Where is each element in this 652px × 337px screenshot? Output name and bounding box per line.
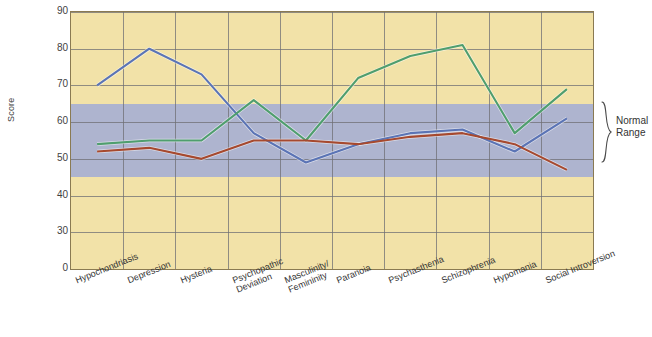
x-tick-3: PsychopathicDeviation: [231, 256, 288, 295]
x-tick-9: Social Introversion: [544, 248, 616, 285]
normal-range-label-line2: Range: [616, 127, 648, 139]
normal-range-annotation: Normal Range: [600, 101, 652, 163]
brace-icon: [600, 101, 614, 163]
x-tick-7: Schizophrenia: [440, 255, 497, 286]
x-tick-5: Paranoia: [335, 263, 372, 286]
x-tick-2: Hysteria: [179, 264, 213, 286]
normal-range-label-line1: Normal: [616, 115, 648, 127]
x-tick-6: Psychasthenia: [387, 254, 445, 285]
x-tick-8: Hypomania: [492, 259, 538, 285]
normal-range-label: Normal Range: [616, 115, 648, 139]
chart-root: Score 908070605040300 HypochondriasisDep…: [0, 0, 652, 337]
x-tick-4: Masculinity/Femininity: [283, 258, 334, 294]
x-tick-1: Depression: [126, 259, 172, 285]
x-axis-tick-labels: HypochondriasisDepressionHysteriaPsychop…: [0, 0, 652, 337]
